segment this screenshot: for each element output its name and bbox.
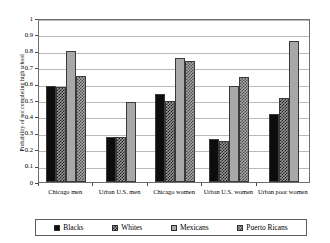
y-tick-label: 0.2 — [9, 147, 33, 154]
bar — [56, 87, 66, 182]
bar — [66, 51, 76, 182]
x-tick-label: Urban poor women — [246, 188, 320, 196]
bar — [76, 76, 86, 182]
y-tick-label: 1 — [9, 16, 33, 23]
legend-label: Blacks — [63, 224, 83, 231]
x-tick-mark — [201, 183, 202, 186]
y-tick-mark — [35, 85, 38, 86]
bar-group — [46, 20, 86, 182]
bar — [289, 41, 299, 182]
y-tick-mark — [35, 101, 38, 102]
y-tick-mark — [35, 150, 38, 151]
y-tick-mark — [35, 52, 38, 53]
bar — [165, 101, 175, 182]
legend: BlacksWhitesMexicansPuerto Ricans — [35, 219, 307, 236]
x-tick-mark — [147, 183, 148, 186]
x-tick-mark — [38, 183, 39, 186]
legend-swatch-icon — [112, 225, 118, 231]
y-tick-mark — [35, 117, 38, 118]
bar-group — [106, 20, 136, 182]
bar — [239, 77, 249, 182]
y-tick-label: 0.8 — [9, 48, 33, 55]
y-tick-mark — [35, 68, 38, 69]
legend-label: Mexicans — [180, 224, 209, 231]
bar — [219, 141, 229, 182]
y-tick-label: 0.5 — [9, 98, 33, 105]
legend-label: Whites — [121, 224, 142, 231]
x-tick-mark — [256, 183, 257, 186]
x-tick-mark — [92, 183, 93, 186]
legend-swatch-icon — [237, 225, 243, 231]
y-tick-label: 0 — [9, 180, 33, 187]
legend-item[interactable]: Puerto Ricans — [237, 224, 287, 231]
bar — [269, 114, 279, 182]
bar — [185, 61, 195, 182]
bar-group — [269, 20, 299, 182]
bar — [229, 86, 239, 182]
legend-item[interactable]: Blacks — [54, 224, 83, 231]
bar — [116, 137, 126, 182]
bar — [106, 137, 116, 182]
bar — [279, 98, 289, 182]
y-tick-label: 0.7 — [9, 65, 33, 72]
bar — [209, 139, 219, 182]
bar-chart: Probability of not completing high schoo… — [0, 0, 330, 243]
bar-group — [209, 20, 249, 182]
legend-swatch-icon — [171, 225, 177, 231]
y-tick-label: 0.3 — [9, 130, 33, 137]
y-tick-label: 0.6 — [9, 81, 33, 88]
y-tick-mark — [35, 134, 38, 135]
legend-swatch-icon — [54, 225, 60, 231]
plot-area — [38, 19, 310, 183]
y-tick-label: 0.9 — [9, 32, 33, 39]
legend-label: Puerto Ricans — [246, 224, 287, 231]
y-tick-label: 0.1 — [9, 163, 33, 170]
y-tick-mark — [35, 167, 38, 168]
bar — [155, 94, 165, 182]
y-tick-mark — [35, 35, 38, 36]
bar — [126, 102, 136, 182]
bar — [46, 86, 56, 182]
bar — [175, 58, 185, 182]
y-tick-mark — [35, 19, 38, 20]
y-tick-label: 0.4 — [9, 114, 33, 121]
legend-item[interactable]: Mexicans — [171, 224, 209, 231]
bar-group — [155, 20, 195, 182]
legend-item[interactable]: Whites — [112, 224, 142, 231]
